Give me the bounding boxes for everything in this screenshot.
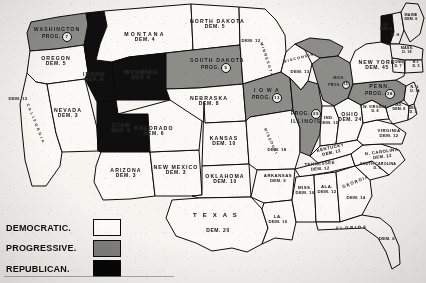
state-shape-florida[interactable] [316,215,400,269]
map-legend: DEMOCRATIC. PROGRESSIVE. REPUBLICAN. [6,219,121,281]
state-shape-arizona[interactable] [94,152,155,200]
legend-row-democratic[interactable]: DEMOCRATIC. [6,219,121,236]
electoral-map-page: WASHINGTON PROG.7 OREGON DEM. 5 DEM. 13 … [0,0,426,283]
legend-swatch-progressive [93,240,121,257]
legend-label-democratic: DEMOCRATIC. [6,223,90,233]
legend-swatch-democratic [93,219,121,236]
state-shape-virginia[interactable] [357,120,406,145]
state-shape-missouri[interactable] [246,110,300,170]
state-shape-mississippi[interactable] [292,175,316,222]
state-shape-wyoming[interactable] [112,53,170,100]
state-shape-oregon[interactable] [27,45,88,84]
state-shape-newmexico[interactable] [150,150,202,196]
state-shape-massachusetts[interactable] [390,44,423,60]
legend-row-progressive[interactable]: PROGRESSIVE. [6,240,121,257]
state-shape-northdakota[interactable] [191,4,240,50]
state-shape-louisiana[interactable] [262,200,296,244]
legend-underline [4,276,174,277]
legend-swatch-republican [93,260,121,277]
state-shape-connecticut[interactable] [392,58,405,73]
legend-label-republican: REPUBLICAN. [6,264,90,274]
legend-label-progressive: PROGRESSIVE. [6,243,90,253]
state-shape-alabama[interactable] [314,172,340,222]
state-shape-rhodeisland[interactable] [405,60,423,73]
state-shape-texas[interactable] [166,197,268,252]
state-shape-newjersey[interactable] [404,82,418,106]
state-shape-delaware[interactable] [408,104,417,120]
legend-row-republican[interactable]: REPUBLICAN. [6,260,121,277]
state-shape-arkansas[interactable] [251,169,295,203]
state-shape-southdakota[interactable] [166,45,243,89]
state-shape-maine[interactable] [401,3,424,42]
